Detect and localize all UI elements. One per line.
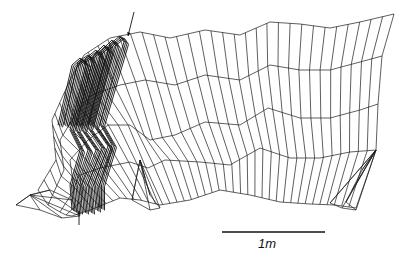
column-line [313,27,326,204]
scale-bar-label: 1m [258,236,276,251]
column-line [108,39,177,202]
column-line [267,23,280,201]
right-foot [330,150,376,210]
wireframe-surface-plot [0,0,403,260]
top-arrow [128,12,134,36]
foot-strut [16,195,30,205]
column-line [234,34,255,196]
column-line [119,36,184,201]
profile-line [72,190,356,216]
foot-strut [132,160,140,200]
column-line [199,31,233,192]
column-line [188,34,226,191]
column-line [177,37,220,191]
column-line [154,35,206,195]
column-line [298,24,306,203]
wireframe-figure: 1m [0,0,403,260]
column-line [305,26,314,204]
foot-strut [30,190,50,195]
column-line [38,190,72,216]
column-line [245,33,263,198]
column-line [289,23,297,202]
column-line [356,14,394,208]
